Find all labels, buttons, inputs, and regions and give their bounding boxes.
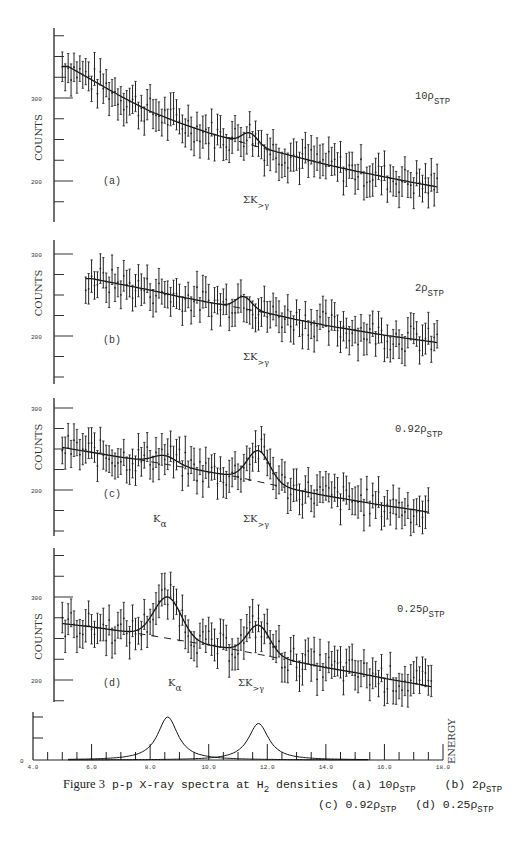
figure-3-spectra: 300200COUNTS(a)10ρSTPΣK>γ300200COUNTS(b)…: [0, 0, 515, 858]
bottom-peak-shape-plot: 4.06.08.010.012.014.016.018.00ENERGY: [20, 712, 457, 771]
y-tick-label: 200: [31, 179, 42, 186]
y-tick-label: 200: [31, 334, 42, 341]
panel-tag: (d): [103, 678, 121, 689]
x-tick-label: 14.0: [319, 764, 334, 771]
data-points: [85, 254, 439, 366]
legend-item-a: (a) 10ρSTP: [351, 778, 416, 791]
y-tick-label: 300: [31, 595, 42, 602]
density-label: 0.25ρSTP: [397, 603, 445, 620]
y-axis-label: COUNTS: [33, 613, 44, 660]
sum-k-gamma-peak-shape: [68, 724, 368, 760]
x-tick-label: 4.0: [28, 764, 39, 771]
y-axis-label: COUNTS: [33, 114, 44, 161]
panel-b: 300200COUNTS(b)2ρSTPΣK>γ: [31, 240, 444, 384]
panel-c: 300200COUNTS(c)0.92ρSTPKαΣK>γ: [31, 398, 443, 536]
y-axis-label: COUNTS: [33, 270, 44, 317]
x-tick-label: 16.0: [377, 764, 392, 771]
panel-tag: (a): [103, 176, 121, 187]
y-tick-label: 200: [31, 488, 42, 495]
x-axis-label: ENERGY: [446, 718, 457, 764]
panels-layer: 300200COUNTS(a)10ρSTPΣK>γ300200COUNTS(b)…: [31, 28, 450, 707]
y-tick-label: 200: [31, 678, 42, 685]
fit-curve: [62, 447, 428, 512]
legend-item-d: (d) 0.25ρSTP: [415, 798, 493, 811]
panel-d: 300200COUNTS(d)0.25ρSTPKαΣK>γ: [31, 548, 445, 707]
caption-title: p-p X-ray spectra at H: [112, 778, 264, 791]
k-alpha-label: Kα: [153, 513, 167, 529]
y-tick-label: 300: [31, 96, 42, 103]
sum-k-gamma-label: ΣK>γ: [243, 351, 269, 367]
panel-a: 300200COUNTS(a)10ρSTPΣK>γ: [31, 28, 450, 222]
background-dashed: [226, 138, 270, 150]
x-tick-label: 6.0: [86, 764, 97, 771]
sum-k-gamma-label: ΣK>γ: [243, 513, 269, 529]
sum-k-gamma-label: ΣK>γ: [238, 677, 264, 693]
y-tick-label: 300: [31, 406, 42, 413]
sum-k-gamma-label: ΣK>γ: [243, 194, 269, 210]
x-tick-label: 8.0: [145, 764, 156, 771]
figure-caption-line-2: (c) 0.92ρSTP (d) 0.25ρSTP: [318, 798, 494, 815]
density-label: 0.92ρSTP: [395, 423, 443, 440]
k-alpha-label: Kα: [168, 677, 182, 693]
k-alpha-peak-shape: [68, 717, 368, 760]
figure-caption: Figure 3 p-p X-ray spectra at H2 densiti…: [63, 777, 502, 795]
density-label: 2ρSTP: [415, 282, 444, 299]
x-tick-label: 12.0: [260, 764, 275, 771]
caption-rest: densities: [269, 778, 338, 791]
panel-tag: (c): [103, 489, 121, 500]
legend-item-b: (b) 2ρSTP: [445, 778, 503, 791]
y-axis-label: COUNTS: [33, 424, 44, 471]
panel-tag: (b): [103, 335, 121, 346]
legend-item-c: (c) 0.92ρSTP: [318, 798, 396, 811]
y-zero-label: 0: [20, 758, 24, 765]
caption-prefix: Figure 3: [63, 777, 105, 791]
x-tick-label: 10.0: [202, 764, 217, 771]
density-label: 10ρSTP: [415, 90, 450, 107]
x-tick-label: 18.0: [436, 764, 451, 771]
y-tick-label: 300: [31, 252, 42, 259]
